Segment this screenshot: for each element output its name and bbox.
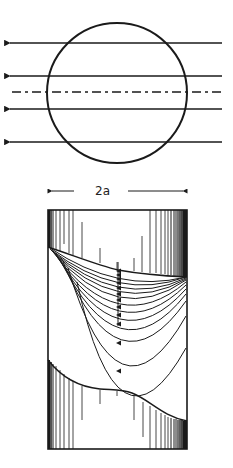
circle-cross-section <box>10 23 222 163</box>
diagram-canvas <box>0 0 233 468</box>
dimension-label: 2a <box>92 184 113 198</box>
cylinder-side-view <box>48 210 187 449</box>
lower-hatching <box>49 360 186 449</box>
